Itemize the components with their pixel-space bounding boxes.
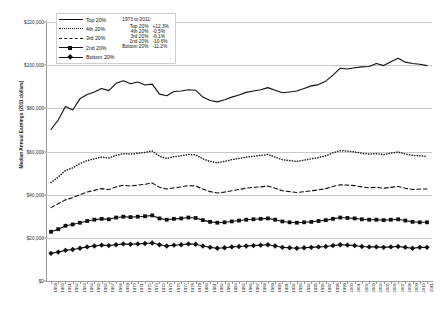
x-tick-mark [152, 281, 153, 284]
x-tick-label: 1986 [248, 283, 253, 293]
x-tick-mark [65, 281, 66, 284]
series-marker [317, 219, 321, 223]
x-tick-mark [369, 281, 370, 284]
series-marker [237, 219, 241, 223]
series-marker [121, 241, 126, 246]
legend-item[interactable]: 3rd 20% [59, 35, 114, 42]
series-marker [389, 218, 393, 222]
series-marker [346, 216, 350, 220]
y-axis-title: Median Annual Earnings (2011 dollars) [19, 55, 24, 195]
x-tick-mark [73, 281, 74, 284]
x-tick-mark [391, 281, 392, 284]
x-tick-label: 2006 [392, 283, 397, 293]
chart-legend: Top 20%4th 20%3rd 20%2nd 20%Bottom 20% 1… [56, 13, 176, 64]
series-marker [302, 220, 306, 224]
x-tick-mark [268, 281, 269, 284]
x-tick-label: 2002 [364, 283, 369, 293]
x-tick-label: 1971 [139, 283, 144, 293]
x-tick-label: 1995 [313, 283, 318, 293]
x-tick-label: 1975 [168, 283, 173, 293]
series-marker [331, 217, 335, 221]
legend-item[interactable]: 2nd 20% [59, 44, 114, 51]
x-tick-mark [253, 281, 254, 284]
x-tick-mark [290, 281, 291, 284]
x-tick-mark [203, 281, 204, 284]
x-tick-mark [282, 281, 283, 284]
series-marker [295, 221, 299, 225]
series-marker [178, 242, 183, 247]
x-tick-label: 2001 [356, 283, 361, 293]
series-marker [64, 224, 68, 228]
x-tick-mark [181, 281, 182, 284]
series-marker [77, 246, 82, 251]
series-marker [49, 230, 53, 234]
x-tick-mark [340, 281, 341, 284]
series-marker [99, 242, 104, 247]
x-tick-label: 1985 [241, 283, 246, 293]
x-tick-label: 1981 [212, 283, 217, 293]
series-marker [396, 217, 400, 221]
series-marker [143, 214, 147, 218]
series-marker [84, 244, 89, 249]
series-marker [323, 244, 328, 249]
x-tick-mark [58, 281, 59, 284]
x-tick-mark [275, 281, 276, 284]
x-tick-label: 1962 [74, 283, 79, 293]
series-marker [135, 241, 140, 246]
x-tick-label: 1976 [176, 283, 181, 293]
x-tick-label: 1982 [219, 283, 224, 293]
series-marker [142, 241, 147, 246]
legend-item[interactable]: Top 20% [59, 16, 114, 23]
x-tick-label: 1984 [233, 283, 238, 293]
series-marker [244, 243, 249, 248]
series-marker [230, 220, 234, 224]
legend-swatch [59, 16, 83, 23]
series-marker [330, 243, 335, 248]
legend-item[interactable]: Bottom 20% [59, 54, 114, 61]
x-tick-label: 1974 [161, 283, 166, 293]
x-tick-mark [304, 281, 305, 284]
series-marker [374, 218, 378, 222]
x-tick-mark [420, 281, 421, 284]
x-tick-label: 1961 [67, 283, 72, 293]
series-marker [150, 240, 155, 245]
x-tick-mark [319, 281, 320, 284]
annotation-box: 1973 to 2011: Top 20%+12.3%4th 20%-0.5%3… [122, 16, 172, 61]
series-marker [236, 244, 241, 249]
series-marker [309, 220, 313, 224]
x-tick-mark [384, 281, 385, 284]
x-tick-mark [174, 281, 175, 284]
series-marker [85, 219, 89, 223]
x-tick-mark [116, 281, 117, 284]
x-tick-mark [405, 281, 406, 284]
x-tick-mark [333, 281, 334, 284]
series-marker [316, 244, 321, 249]
series-marker [215, 246, 220, 251]
chart-container: $0$20,000$40,000$60,000$80,000$100,000$1… [0, 0, 443, 317]
series-marker [345, 242, 350, 247]
x-tick-label: 1996 [320, 283, 325, 293]
legend-item[interactable]: 4th 20% [59, 25, 114, 32]
series-marker [113, 242, 118, 247]
series-marker [193, 242, 198, 247]
series-marker [251, 243, 256, 248]
x-tick-mark [80, 281, 81, 284]
x-tick-label: 1999 [342, 283, 347, 293]
series-marker [353, 217, 357, 221]
x-tick-label: 1987 [255, 283, 260, 293]
x-tick-mark [131, 281, 132, 284]
series-marker [92, 243, 97, 248]
x-tick-mark [145, 281, 146, 284]
y-tick-label: $20,000 [0, 235, 44, 240]
series-marker [186, 216, 190, 220]
x-tick-mark [138, 281, 139, 284]
annotation-title: 1973 to 2011: [122, 17, 172, 22]
series-marker [403, 219, 407, 223]
series-marker [229, 244, 234, 249]
x-tick-label: 1968 [118, 283, 123, 293]
series-marker [411, 220, 415, 224]
x-tick-label: 2005 [385, 283, 390, 293]
series-marker [367, 218, 371, 222]
series-marker [417, 245, 422, 250]
x-tick-mark [210, 281, 211, 284]
